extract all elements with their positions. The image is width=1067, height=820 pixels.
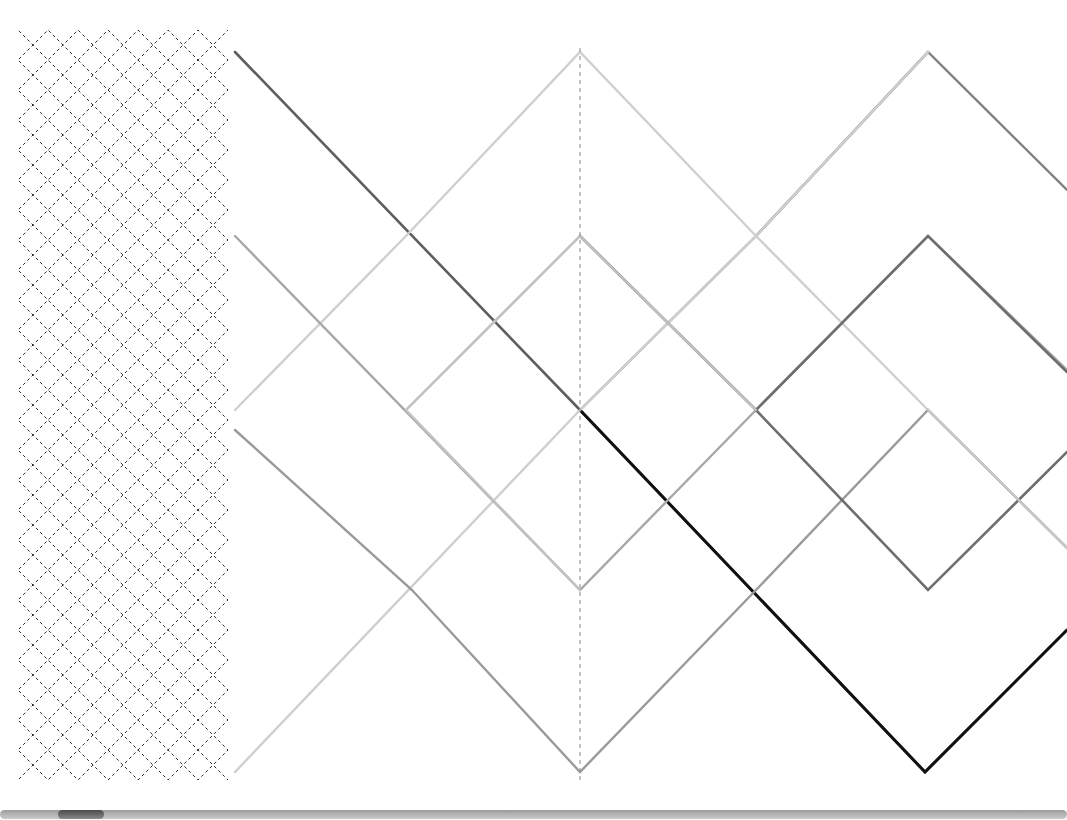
- zigzag-line: [406, 236, 756, 410]
- zigzag-line: [928, 410, 1067, 548]
- zigzag-line: [756, 52, 1067, 236]
- dashed-lattice-panel: [0, 0, 278, 806]
- scrollbar-thumb[interactable]: [58, 810, 104, 819]
- zigzag-line: [235, 236, 1067, 590]
- zigzag-line: [235, 410, 1067, 772]
- scrollbar-track[interactable]: [0, 810, 1067, 819]
- pattern-viewer-window: [0, 0, 1067, 820]
- pattern-svg: [0, 0, 1067, 806]
- zigzag-line: [406, 236, 580, 590]
- horizontal-scrollbar[interactable]: [0, 806, 1067, 820]
- zigzag-line: [580, 236, 1067, 410]
- zigzag-line: [580, 410, 1067, 772]
- zigzag-line: [235, 52, 1067, 548]
- zigzag-line: [235, 52, 1067, 772]
- zigzag-line-group: [235, 52, 1067, 772]
- pattern-canvas[interactable]: [0, 0, 1067, 806]
